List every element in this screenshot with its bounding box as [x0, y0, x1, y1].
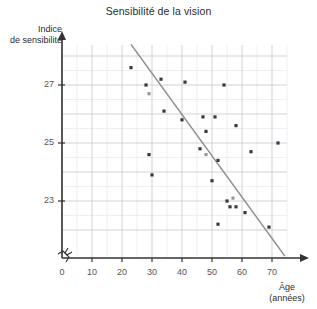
data-point [222, 83, 225, 86]
x-tick-label: 50 [200, 267, 224, 277]
data-point [150, 173, 153, 176]
data-point [129, 66, 132, 69]
data-point [234, 205, 237, 208]
data-point [210, 179, 213, 182]
x-tick-label: 60 [230, 267, 254, 277]
trend-line [131, 44, 285, 256]
data-point [228, 205, 231, 208]
x-tick-label: 0 [50, 267, 74, 277]
x-tick-label: 30 [140, 267, 164, 277]
y-tick-label: 23 [32, 195, 54, 205]
data-point [147, 153, 150, 156]
data-point [204, 130, 207, 133]
data-point [147, 92, 150, 95]
data-point [162, 110, 165, 113]
x-tick-label: 70 [260, 267, 284, 277]
data-point [249, 150, 252, 153]
data-point [183, 81, 186, 84]
data-point [201, 115, 204, 118]
data-point [180, 118, 183, 121]
y-tick-label: 25 [32, 137, 54, 147]
data-point [198, 147, 201, 150]
data-point [234, 124, 237, 127]
x-tick-label: 10 [80, 267, 104, 277]
data-point [213, 115, 216, 118]
data-point [159, 78, 162, 81]
grid-minor-lines [62, 45, 287, 258]
data-point [225, 199, 228, 202]
plot-area [0, 0, 317, 309]
x-tick-label: 40 [170, 267, 194, 277]
grid-major-lines [62, 45, 287, 258]
data-point [204, 153, 207, 156]
x-tick-label: 20 [110, 267, 134, 277]
data-point [267, 226, 270, 229]
axis-lines [58, 31, 309, 262]
data-point [243, 211, 246, 214]
data-point [216, 159, 219, 162]
data-point [216, 223, 219, 226]
data-point [144, 83, 147, 86]
y-tick-label: 27 [32, 79, 54, 89]
data-point [231, 197, 234, 200]
chart-figure: Sensibilité de la vision Indice de sensi… [0, 0, 317, 309]
data-point [276, 141, 279, 144]
